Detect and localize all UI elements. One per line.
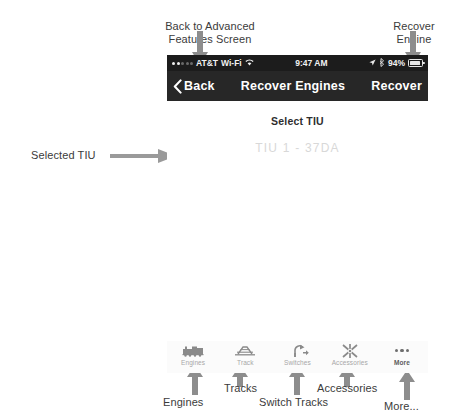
annotation-selected-tiu: Selected TIU [31, 149, 96, 162]
status-bar-center: 9:47 AM [254, 58, 369, 68]
tab-bar: Engines Track [167, 341, 428, 373]
back-button-label: Back [184, 79, 215, 93]
tab-accessories-label: Accessories [332, 359, 368, 366]
tab-more-label: More [394, 359, 410, 366]
signal-strength-icon [172, 62, 193, 65]
location-arrow-icon [369, 58, 376, 68]
tab-switches-label: Switches [284, 359, 311, 366]
status-bar-left: AT&T Wi-Fi [172, 58, 254, 68]
navigation-bar: Back Recover Engines Recover [167, 71, 428, 101]
back-button[interactable]: Back [173, 79, 215, 94]
tab-track-label: Track [237, 359, 254, 366]
recover-button[interactable]: Recover [371, 79, 422, 93]
wifi-icon [245, 58, 254, 68]
annotation-label-more: More... [384, 400, 419, 413]
accessory-icon [341, 343, 359, 358]
tab-accessories[interactable]: Accessories [324, 343, 376, 366]
battery-percent-label: 94% [388, 58, 405, 68]
switch-icon [287, 343, 309, 358]
clock-label: 9:47 AM [295, 58, 327, 68]
tab-engines[interactable]: Engines [167, 343, 219, 366]
annotation-label-tracks: Tracks [224, 382, 257, 395]
status-bar: AT&T Wi-Fi 9:47 AM 94% [167, 55, 428, 71]
content-area: Select TIU TIU 1 - 37DA [167, 101, 428, 341]
ellipsis-icon [395, 343, 409, 358]
arrow-to-tab-more [398, 370, 416, 400]
chevron-left-icon [173, 79, 182, 94]
battery-icon [408, 59, 423, 68]
tab-engines-label: Engines [181, 359, 205, 366]
network-label: Wi-Fi [221, 58, 242, 68]
select-tiu-label: Select TIU [167, 115, 428, 127]
phone-screenshot: AT&T Wi-Fi 9:47 AM 94% [167, 55, 428, 373]
annotation-label-switch-tracks: Switch Tracks [259, 396, 328, 409]
status-bar-right: 94% [369, 58, 423, 69]
tab-more[interactable]: More [376, 343, 428, 366]
tab-track[interactable]: Track [219, 343, 271, 366]
annotation-label-accessories: Accessories [317, 382, 377, 395]
bluetooth-icon [379, 58, 385, 69]
annotation-label-engines: Engines [163, 396, 203, 409]
track-icon [234, 343, 256, 358]
selected-tiu-value[interactable]: TIU 1 - 37DA [167, 141, 428, 155]
locomotive-icon [182, 343, 204, 358]
tab-switches[interactable]: Switches [271, 343, 323, 366]
page-title: Recover Engines [241, 79, 345, 93]
annotation-back-to-advanced: Back to Advanced Features Screen [131, 20, 289, 45]
recover-button-label: Recover [371, 79, 422, 93]
carrier-label: AT&T [196, 58, 218, 68]
